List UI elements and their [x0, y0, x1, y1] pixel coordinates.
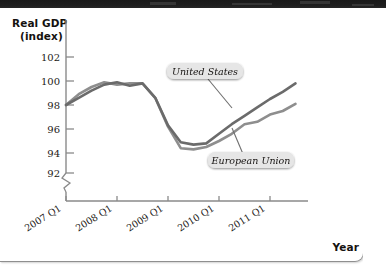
leader-line-european-union [232, 128, 243, 154]
y-axis-tick-labels: 102 100 98 96 94 92 [41, 52, 60, 179]
annotation-label-united-states: United States [172, 66, 238, 77]
y-tick-label-100: 100 [41, 76, 60, 87]
x-axis-tick-labels: 2007 Q1 2008 Q1 2009 Q1 2010 Q1 2011 Q1 [22, 202, 267, 233]
y-tick-label-92: 92 [47, 168, 60, 179]
y-tick-label-94: 94 [47, 148, 60, 159]
y-tick-label-98: 98 [47, 100, 60, 111]
axis-lines [62, 20, 308, 201]
x-tick-label-2010q1: 2010 Q1 [175, 202, 216, 233]
x-axis-ticks [66, 196, 270, 201]
x-tick-label-2007q1: 2007 Q1 [22, 202, 63, 233]
series-line-united-states [66, 82, 296, 144]
chart-plot-area: 102 100 98 96 94 92 2007 Q1 2008 Q1 2009… [0, 0, 386, 269]
chart-figure: Real GDP (index) Year [0, 0, 386, 269]
series-line-european-union [66, 82, 296, 149]
y-tick-label-96: 96 [47, 124, 60, 135]
annotation-united-states: United States [167, 63, 243, 79]
annotation-european-union: European Union [208, 152, 294, 168]
x-tick-label-2011q1: 2011 Q1 [226, 202, 267, 233]
x-tick-label-2008q1: 2008 Q1 [73, 202, 114, 233]
y-axis-break-icon [62, 173, 70, 192]
y-axis-ticks [66, 57, 74, 173]
x-tick-label-2009q1: 2009 Q1 [124, 202, 165, 233]
annotation-label-european-union: European Union [211, 155, 291, 166]
y-tick-label-102: 102 [41, 52, 60, 63]
leader-line-united-states [208, 79, 232, 108]
